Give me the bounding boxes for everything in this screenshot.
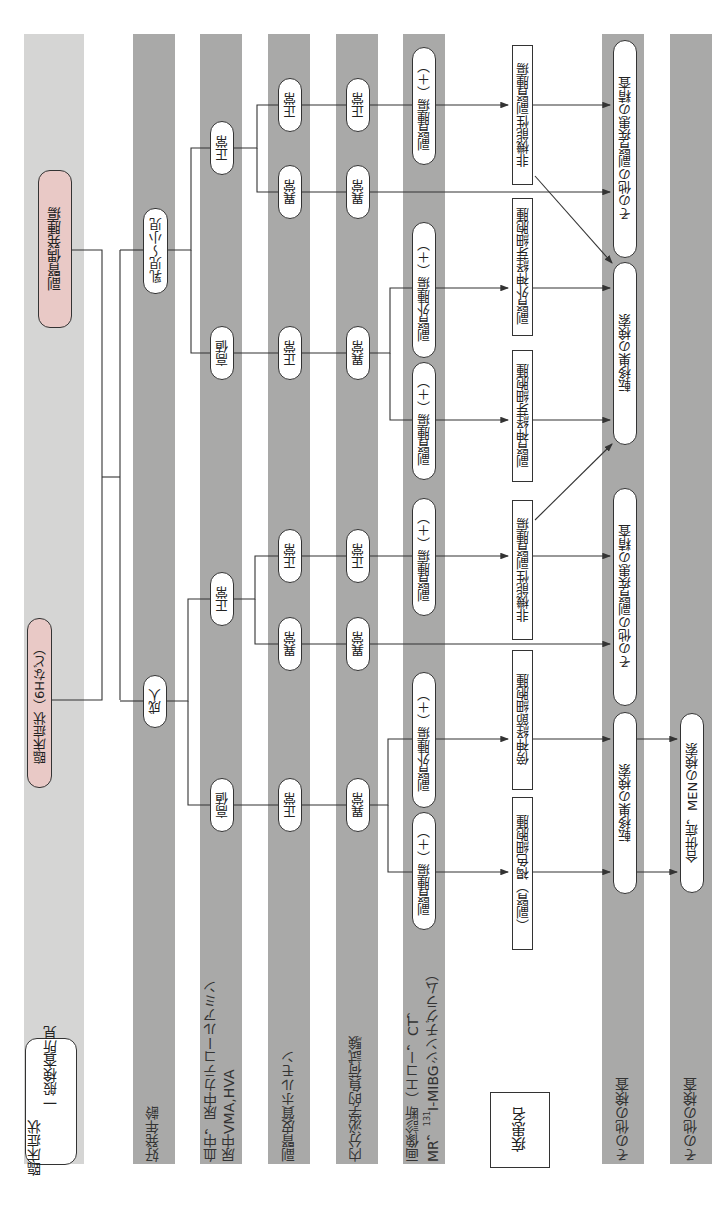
node-adult-load-abnormal-high: 異常 bbox=[346, 778, 370, 832]
label-clinical-findings-line2: 一般検査所見 bbox=[42, 1027, 60, 1121]
label-clinical-findings-line1: 臨床症状 bbox=[26, 1121, 76, 1177]
label-catecholamine-line1: 血中，尿中カテコールアミン bbox=[203, 980, 219, 1162]
label-catecholamine-line2: 尿中VMA,HVA bbox=[221, 1070, 237, 1162]
label-other-tests-1: その他の検査 bbox=[615, 1090, 633, 1162]
node-adult-load-abnormal: 異常 bbox=[346, 617, 370, 671]
node-adult-catechol-normal: 正常 bbox=[210, 572, 234, 626]
node-child-cortical-normal: 正常 bbox=[278, 78, 302, 132]
dx-child-extra-adrenal-neuroblastoma: 副腎外神経芽細胞腫 bbox=[512, 198, 533, 336]
dx-child-adrenal-neuroblastoma: 副腎神経芽細胞腫 bbox=[512, 350, 533, 482]
label-imaging-mibg: I-MIBGシンチグラム） bbox=[425, 967, 441, 1111]
node-child-other-adrenal-workup: その他の副腎疾患の精査 bbox=[613, 40, 637, 258]
node-child-cortical-abnormal: 異常 bbox=[278, 165, 302, 219]
node-child-img-extra-adrenal: 副腎外腫瘍（＋） bbox=[412, 222, 436, 358]
label-cortical-hormone: 副腎皮質ホルモン bbox=[281, 1026, 299, 1162]
node-child-catechol-high: 高値 bbox=[210, 326, 234, 380]
label-catecholamine: 血中，尿中カテコールアミン 尿中VMA,HVA bbox=[203, 960, 238, 1162]
label-endocrine-load-test: 内分泌学的負荷試験 bbox=[348, 1008, 366, 1162]
node-adult-img-adrenal-tumor-2: 副腎腫瘍（＋） bbox=[412, 812, 436, 930]
node-child-img-adrenal-tumor: 副腎腫瘍（＋） bbox=[412, 47, 436, 165]
node-adult-img-adrenal-tumor: 副腎腫瘍（＋） bbox=[412, 498, 436, 616]
node-adult-cortical-abnormal: 異常 bbox=[278, 617, 302, 671]
dx-adult-paraganglioma: 傍神経節細胞腫 bbox=[512, 650, 533, 790]
node-adult-cortical-normal: 正常 bbox=[278, 529, 302, 583]
label-onset-age: 好発年齢 bbox=[145, 1100, 163, 1162]
node-child-age: 乳児〜小児 bbox=[143, 208, 168, 294]
node-adult-complication-men-search: 合併症，MENの検索 bbox=[680, 713, 704, 893]
legend-disease-name: 疾患名 bbox=[490, 1092, 550, 1168]
node-adult-age: 成人 bbox=[143, 675, 167, 728]
node-adult-cortical-normal-high: 正常 bbox=[278, 778, 302, 832]
node-child-img-adrenal-tumor-2: 副腎腫瘍（＋） bbox=[412, 362, 436, 480]
dx-child-nonfunctional-adrenal-tumor: 非機能性副腎腫瘍 bbox=[512, 45, 533, 185]
label-imaging-line1: 画像診断（エコー，CT， bbox=[405, 1004, 421, 1162]
node-adult-catechol-high: 高値 bbox=[210, 778, 234, 832]
node-adult-other-adrenal-workup: その他の副腎疾患の精査 bbox=[613, 488, 637, 706]
label-imaging-isotope: 131 bbox=[423, 1111, 432, 1126]
node-adult-img-extra-adrenal: 副腎外腫瘍（＋） bbox=[412, 672, 436, 808]
node-adult-metastasis-search: 転移巣の検索 bbox=[613, 712, 637, 894]
node-adrenal-incidentaloma: 副腎偶発腫瘍 bbox=[38, 170, 72, 328]
label-imaging-line2: MR，131I-MIBGシンチグラム） bbox=[425, 967, 441, 1162]
label-imaging-mr: MR， bbox=[425, 1126, 441, 1162]
node-adult-load-normal: 正常 bbox=[346, 529, 370, 583]
node-child-catechol-normal: 正常 bbox=[210, 121, 234, 175]
node-child-load-abnormal-high: 異常 bbox=[346, 326, 370, 380]
label-imaging: 画像診断（エコー，CT， MR，131I-MIBGシンチグラム） bbox=[405, 960, 443, 1162]
dx-adult-nonfunctional-adrenal-tumor: 非機能性副腎腫瘍 bbox=[512, 500, 533, 640]
label-clinical-findings: 臨床症状 一般検査所見 bbox=[25, 1038, 77, 1165]
label-other-tests-2: その他の検査 bbox=[683, 1090, 701, 1162]
node-child-cortical-normal-high: 正常 bbox=[278, 326, 302, 380]
node-child-metastasis-search: 転移巣の検索 bbox=[613, 262, 637, 445]
node-child-load-abnormal: 異常 bbox=[346, 165, 370, 219]
dx-adult-pheochromocytoma: （副腎）褐色細胞腫 bbox=[512, 797, 533, 950]
node-clinical-symptoms: 臨床症状（6Hなど） bbox=[27, 618, 52, 788]
node-child-load-normal: 正常 bbox=[346, 78, 370, 132]
